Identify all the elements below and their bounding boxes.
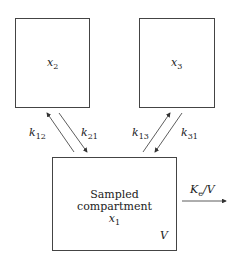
- compartment-x2: x2: [15, 18, 90, 108]
- compartment-x2-label: x2: [47, 56, 58, 71]
- compartment-x3-label: x3: [171, 56, 182, 71]
- arrow-k31: [155, 113, 182, 152]
- compartment-x1-label: x1: [53, 213, 176, 229]
- volume-label: V: [160, 229, 168, 242]
- rate-k12: k12: [29, 126, 46, 141]
- compartment-x3: x3: [139, 18, 215, 108]
- rate-k31: k31: [181, 126, 198, 141]
- arrow-k12: [47, 113, 74, 152]
- rate-k13: k13: [132, 126, 149, 141]
- compartment-x1-sampled: Sampled compartment x1 V: [52, 157, 177, 251]
- rate-elimination: Ke/V: [190, 183, 215, 198]
- rate-k21: k21: [81, 126, 98, 141]
